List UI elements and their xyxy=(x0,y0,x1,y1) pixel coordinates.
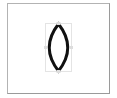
left-handle[interactable] xyxy=(44,46,47,49)
right-handle[interactable] xyxy=(70,46,73,49)
bottom-handle[interactable] xyxy=(57,70,61,73)
shape-layer xyxy=(0,0,117,98)
top-handle[interactable] xyxy=(57,22,61,25)
lens-shape-icon[interactable] xyxy=(49,24,68,71)
